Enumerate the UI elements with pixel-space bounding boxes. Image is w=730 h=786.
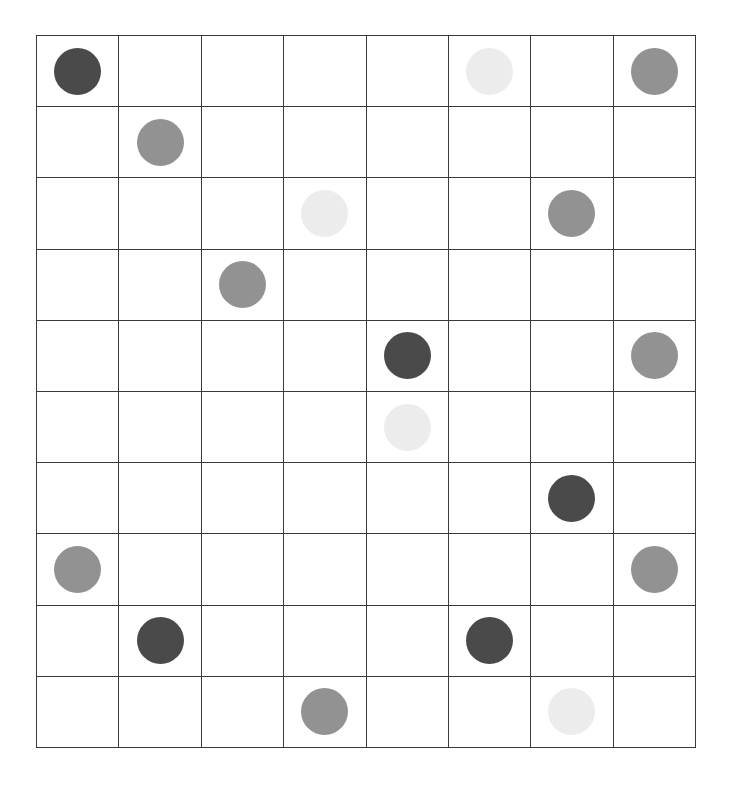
board-cell[interactable] xyxy=(37,36,119,107)
board-cell[interactable] xyxy=(531,178,613,249)
light-circle-piece[interactable] xyxy=(301,190,348,237)
board-cell[interactable] xyxy=(614,107,696,178)
board-cell[interactable] xyxy=(284,107,366,178)
board-cell[interactable] xyxy=(449,606,531,677)
board-cell[interactable] xyxy=(119,36,201,107)
board-cell[interactable] xyxy=(449,677,531,748)
board-cell[interactable] xyxy=(367,178,449,249)
board-cell[interactable] xyxy=(37,392,119,463)
board-cell[interactable] xyxy=(202,321,284,392)
board-cell[interactable] xyxy=(37,321,119,392)
board-cell[interactable] xyxy=(614,321,696,392)
board-cell[interactable] xyxy=(284,392,366,463)
board-cell[interactable] xyxy=(531,463,613,534)
board-cell[interactable] xyxy=(119,250,201,321)
board-cell[interactable] xyxy=(449,250,531,321)
board-cell[interactable] xyxy=(614,392,696,463)
board-cell[interactable] xyxy=(367,107,449,178)
board-cell[interactable] xyxy=(202,677,284,748)
dark-circle-piece[interactable] xyxy=(548,475,595,522)
board-cell[interactable] xyxy=(614,463,696,534)
medium-circle-piece[interactable] xyxy=(631,332,678,379)
board-cell[interactable] xyxy=(367,463,449,534)
board-cell[interactable] xyxy=(119,606,201,677)
board-cell[interactable] xyxy=(367,606,449,677)
board-cell[interactable] xyxy=(367,250,449,321)
board-cell[interactable] xyxy=(449,463,531,534)
board-cell[interactable] xyxy=(284,36,366,107)
board-cell[interactable] xyxy=(119,392,201,463)
medium-circle-piece[interactable] xyxy=(631,48,678,95)
board-cell[interactable] xyxy=(614,250,696,321)
board-cell[interactable] xyxy=(614,178,696,249)
board-cell[interactable] xyxy=(449,36,531,107)
board-cell[interactable] xyxy=(614,534,696,605)
dark-circle-piece[interactable] xyxy=(466,617,513,664)
board-cell[interactable] xyxy=(367,321,449,392)
board-cell[interactable] xyxy=(531,677,613,748)
board-cell[interactable] xyxy=(531,534,613,605)
board-cell[interactable] xyxy=(202,36,284,107)
board-cell[interactable] xyxy=(284,321,366,392)
board-cell[interactable] xyxy=(202,107,284,178)
medium-circle-piece[interactable] xyxy=(631,546,678,593)
board-cell[interactable] xyxy=(202,250,284,321)
board-cell[interactable] xyxy=(531,606,613,677)
board-cell[interactable] xyxy=(119,178,201,249)
board-cell[interactable] xyxy=(614,36,696,107)
board-cell[interactable] xyxy=(202,606,284,677)
board-cell[interactable] xyxy=(531,107,613,178)
board-cell[interactable] xyxy=(531,392,613,463)
dark-circle-piece[interactable] xyxy=(384,332,431,379)
light-circle-piece[interactable] xyxy=(466,48,513,95)
board-cell[interactable] xyxy=(119,321,201,392)
board-cell[interactable] xyxy=(614,677,696,748)
medium-circle-piece[interactable] xyxy=(137,119,184,166)
board-cell[interactable] xyxy=(119,463,201,534)
light-circle-piece[interactable] xyxy=(384,404,431,451)
board-cell[interactable] xyxy=(202,178,284,249)
board-cell[interactable] xyxy=(284,677,366,748)
board-cell[interactable] xyxy=(367,36,449,107)
board-cell[interactable] xyxy=(284,463,366,534)
board-cell[interactable] xyxy=(449,534,531,605)
board-cell[interactable] xyxy=(37,178,119,249)
board-cell[interactable] xyxy=(614,606,696,677)
board-cell[interactable] xyxy=(449,392,531,463)
medium-circle-piece[interactable] xyxy=(548,190,595,237)
medium-circle-piece[interactable] xyxy=(219,261,266,308)
board-cell[interactable] xyxy=(284,606,366,677)
board-cell[interactable] xyxy=(202,463,284,534)
board-cell[interactable] xyxy=(37,463,119,534)
board-cell[interactable] xyxy=(284,178,366,249)
board-cell[interactable] xyxy=(119,534,201,605)
board-cell[interactable] xyxy=(37,606,119,677)
board-cell[interactable] xyxy=(37,107,119,178)
board-cell[interactable] xyxy=(367,677,449,748)
light-circle-piece[interactable] xyxy=(548,688,595,735)
medium-circle-piece[interactable] xyxy=(301,688,348,735)
board-cell[interactable] xyxy=(449,178,531,249)
dark-circle-piece[interactable] xyxy=(137,617,184,664)
board-cell[interactable] xyxy=(367,534,449,605)
board-cell[interactable] xyxy=(202,534,284,605)
medium-circle-piece[interactable] xyxy=(54,546,101,593)
board-cell[interactable] xyxy=(531,36,613,107)
board-cell[interactable] xyxy=(37,250,119,321)
board-cell[interactable] xyxy=(449,107,531,178)
dark-circle-piece[interactable] xyxy=(54,48,101,95)
board-cell[interactable] xyxy=(37,677,119,748)
board-cell[interactable] xyxy=(531,321,613,392)
board-cell[interactable] xyxy=(119,107,201,178)
board-cell[interactable] xyxy=(119,677,201,748)
board-cell[interactable] xyxy=(37,534,119,605)
game-board xyxy=(36,35,696,748)
board-cell[interactable] xyxy=(284,534,366,605)
board-cell[interactable] xyxy=(367,392,449,463)
board-cell[interactable] xyxy=(531,250,613,321)
board-cell[interactable] xyxy=(202,392,284,463)
board-cell[interactable] xyxy=(284,250,366,321)
board-cell[interactable] xyxy=(449,321,531,392)
